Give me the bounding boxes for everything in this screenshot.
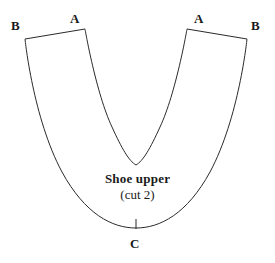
vertex-label-b-left: B xyxy=(11,19,20,32)
vertex-label-a-left: A xyxy=(70,12,79,25)
vertex-label-c-bottom: C xyxy=(130,237,139,250)
shoe-upper-pattern-figure: B A A B C Shoe upper (cut 2) xyxy=(0,0,275,263)
pattern-drawing xyxy=(0,0,275,263)
shoe-upper-outline xyxy=(25,29,247,228)
vertex-label-b-right: B xyxy=(251,19,260,32)
vertex-label-a-right: A xyxy=(194,12,203,25)
